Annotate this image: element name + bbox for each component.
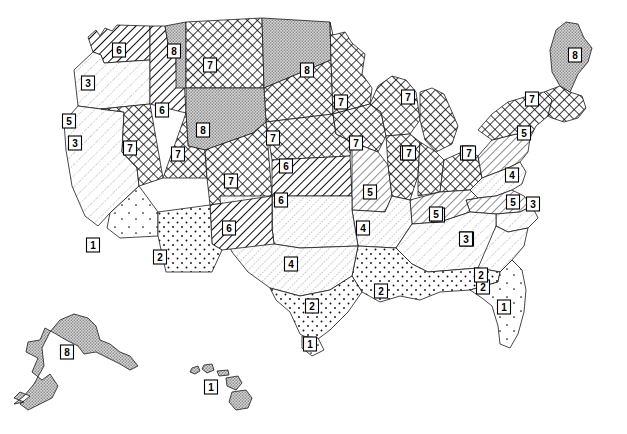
zone-label-ohio[interactable]: 7 — [463, 146, 476, 160]
zone-label-text: 5 — [510, 197, 516, 208]
zone-label-colorado[interactable]: 7 — [225, 174, 238, 188]
zone-label-text: 4 — [288, 259, 294, 270]
zone-label-hawaii[interactable]: 1 — [205, 380, 218, 394]
zone-label-louisiana[interactable]: 2 — [375, 284, 388, 298]
zone-label-south-dakota[interactable]: 7 — [267, 131, 280, 145]
zone-label-text: 6 — [159, 105, 165, 116]
zone-label-maine[interactable]: 8 — [569, 48, 582, 62]
zone-label-text: 6 — [226, 223, 232, 234]
zone-label-n-california[interactable]: 5 — [63, 114, 76, 128]
zone-label-text: 2 — [157, 252, 163, 263]
zone-label-utah[interactable]: 7 — [172, 147, 185, 161]
us-zone-map: 6353168787877776765777726442125533212354… — [0, 0, 627, 434]
map-root: 6353168787877776765777726442125533212354… — [0, 0, 627, 434]
state-montana-east[interactable] — [186, 18, 264, 88]
zone-label-wyoming[interactable]: 8 — [197, 123, 210, 137]
zone-label-text: 7 — [207, 60, 213, 71]
zone-label-text: 3 — [72, 138, 78, 149]
zone-label-text: 8 — [171, 46, 177, 57]
zone-label-text: 7 — [270, 133, 276, 144]
zone-label-w-montana[interactable]: 8 — [168, 44, 181, 58]
zone-label-text: 7 — [529, 94, 535, 105]
zone-label-text: 1 — [501, 302, 507, 313]
zone-label-california[interactable]: 3 — [69, 136, 82, 150]
zone-label-text: 1 — [208, 382, 214, 393]
zone-label-text: 8 — [572, 50, 578, 61]
zone-label-text: 3 — [85, 78, 91, 89]
zone-label-oklahoma[interactable]: 4 — [357, 221, 370, 235]
island-molokai[interactable] — [217, 370, 229, 376]
zone-label-text: 8 — [64, 347, 70, 358]
zone-label-text: 5 — [433, 209, 439, 220]
zone-label-new-york[interactable]: 7 — [526, 92, 539, 106]
zone-label-text: 7 — [406, 148, 412, 159]
zone-label-pennsylvania[interactable]: 5 — [518, 126, 531, 140]
zone-label-florida[interactable]: 1 — [498, 300, 511, 314]
zone-label-text: 1 — [90, 240, 96, 251]
zone-label-idaho[interactable]: 6 — [156, 103, 169, 117]
zone-label-text: 2 — [478, 270, 484, 281]
zone-label-text: 4 — [509, 170, 515, 181]
zone-label-oregon[interactable]: 3 — [82, 76, 95, 90]
zone-label-text: 2 — [309, 301, 315, 312]
zone-label-georgia[interactable]: 2 — [475, 268, 488, 282]
zone-label-alabama[interactable]: 3 — [460, 232, 473, 246]
zone-label-text: 1 — [307, 339, 313, 350]
zone-label-nebraska[interactable]: 6 — [280, 159, 293, 173]
zone-label-text: 5 — [66, 116, 72, 127]
zone-label-e-montana[interactable]: 7 — [204, 58, 217, 72]
zone-label-alaska[interactable]: 8 — [61, 345, 74, 359]
zone-label-north-carolina[interactable]: 5 — [507, 195, 520, 209]
zone-label-s-california[interactable]: 1 — [87, 238, 100, 252]
zone-label-texas-tip[interactable]: 1 — [304, 337, 317, 351]
zone-label-nevada[interactable]: 7 — [124, 141, 137, 155]
zone-label-illinois[interactable]: 7 — [403, 146, 416, 160]
zone-label-s-texas[interactable]: 2 — [306, 299, 319, 313]
state-new-mexico[interactable] — [210, 196, 274, 250]
zone-label-text: 3 — [463, 234, 469, 245]
zone-label-text: 6 — [278, 195, 284, 206]
zone-label-missouri[interactable]: 5 — [364, 185, 377, 199]
zone-label-text: 5 — [367, 187, 373, 198]
zone-label-text: 8 — [304, 65, 310, 76]
zone-label-kentucky[interactable]: 5 — [430, 207, 443, 221]
zone-label-arizona[interactable]: 2 — [154, 250, 167, 264]
zone-label-text: 2 — [480, 282, 486, 293]
zone-label-text: 8 — [200, 125, 206, 136]
zone-label-text: 7 — [466, 148, 472, 159]
zone-label-south-carolina[interactable]: 3 — [527, 197, 540, 211]
zone-label-text: 4 — [360, 223, 366, 234]
zone-label-iowa[interactable]: 7 — [350, 136, 363, 150]
zone-label-text: 7 — [405, 92, 411, 103]
zone-label-wisconsin[interactable]: 7 — [402, 90, 415, 104]
zone-label-text: 5 — [521, 128, 527, 139]
zone-label-texas[interactable]: 4 — [285, 257, 298, 271]
zone-label-text: 7 — [127, 143, 133, 154]
zone-label-text: 2 — [378, 286, 384, 297]
zone-label-kansas[interactable]: 6 — [275, 193, 288, 207]
zone-label-text: 6 — [283, 161, 289, 172]
zone-label-north-dakota[interactable]: 8 — [301, 63, 314, 77]
zone-label-virginia[interactable]: 4 — [506, 168, 519, 182]
zone-label-text: 3 — [530, 199, 536, 210]
zone-label-text: 7 — [338, 97, 344, 108]
zone-label-new-mexico[interactable]: 6 — [223, 221, 236, 235]
zone-label-text: 6 — [116, 45, 122, 56]
zone-label-washington[interactable]: 6 — [113, 43, 126, 57]
zone-label-minnesota[interactable]: 7 — [335, 95, 348, 109]
zone-label-text: 7 — [175, 149, 181, 160]
zone-label-text: 7 — [353, 138, 359, 149]
zone-label-text: 7 — [228, 176, 234, 187]
